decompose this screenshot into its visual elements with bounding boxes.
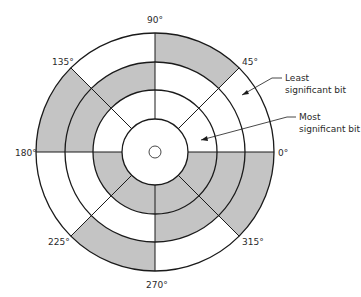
track-boundary <box>122 119 188 185</box>
angle-label-180: 180° <box>15 148 37 158</box>
lsb-annotation-line1: Least <box>285 72 346 84</box>
hub-circle <box>149 146 161 158</box>
lsb-arrowhead-icon <box>242 90 249 95</box>
msb-annotation-line1: Most <box>299 111 360 123</box>
lsb-annotation-line2: significant bit <box>285 84 346 96</box>
sector-dividers <box>36 33 274 271</box>
annotation-arrows <box>201 78 296 141</box>
encoder-disk-diagram <box>0 0 361 297</box>
angle-label-270: 270° <box>146 280 168 290</box>
angle-label-90: 90° <box>147 15 163 25</box>
lsb-annotation: Least significant bit <box>285 72 346 96</box>
msb-annotation: Most significant bit <box>299 111 360 135</box>
angle-label-135: 135° <box>52 57 74 67</box>
msb-arrowhead-icon <box>201 136 208 141</box>
angle-label-45: 45° <box>242 57 258 67</box>
msb-arrow <box>201 117 296 140</box>
angle-label-315: 315° <box>242 237 264 247</box>
angle-label-0: 0° <box>278 148 288 158</box>
angle-label-225: 225° <box>48 237 70 247</box>
msb-annotation-line2: significant bit <box>299 123 360 135</box>
